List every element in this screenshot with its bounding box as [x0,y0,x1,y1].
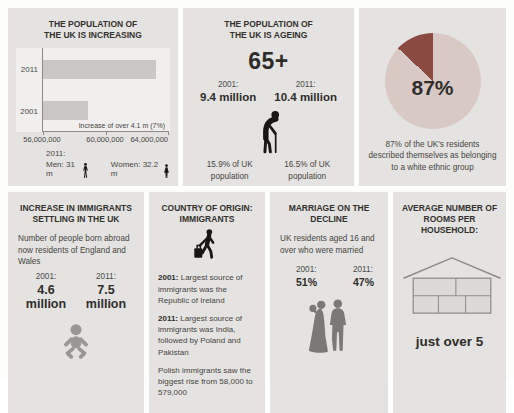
marriage-subtitle: UK residents aged 16 and over who were m… [280,233,380,256]
year-label: 2011: [274,80,337,89]
panel-country-of-origin: COUNTRY OF ORIGIN: IMMIGRANTS [149,192,265,413]
panel-population-ageing: THE POPULATION OF THE UK IS AGEING 65+ 2… [183,8,354,186]
value-2001: 9.4 million [200,91,256,103]
x-label-64m: 64,000,000 [130,135,168,144]
value-2011: 10.4 million [274,91,337,103]
year-label: 2011: [76,272,136,281]
fact-polish: Polish immigrants saw the biggest rise f… [158,365,257,399]
elderly-person-icon [252,109,286,159]
men-label: Men: 31 m [46,160,79,178]
panel-marriage-decline: MARRIAGE ON THE DECLINE UK residents age… [270,192,388,413]
age-group-label: 65+ [191,48,346,75]
bar-2011 [43,60,156,79]
marriage-values-row: 2001: 51% 2011: 47% [278,265,380,288]
panel-title: MARRIAGE ON THE DECLINE [278,203,380,225]
immigrants-2001-column: 2001: 4.6 million [16,272,76,311]
bar-chart-annotation: Increase of over 4.1 m (7%) [79,122,165,129]
panel-title: COUNTRY OF ORIGIN: IMMIGRANTS [157,203,257,225]
value-2011: 47% [353,276,374,288]
bar-chart-y-axis-labels: 2011 2001 [16,48,42,132]
value-2011: 7.5 million [76,283,136,311]
panel-rooms-per-household: AVERAGE NUMBER OF ROOMS PER HOUSEHOLD: j… [393,192,506,413]
fact-year: 2001: [158,273,178,282]
women-label: Women: 32.2 m [111,160,160,178]
value-2001: 4.6 million [16,283,76,311]
fact-2001: 2001: Largest source of immigrants was t… [158,272,257,306]
bottom-row: INCREASE IN IMMIGRANTS SETTLING IN THE U… [8,192,506,413]
population-bar-chart: 2011 2001 Increase of over 4.1 m (7%) [16,48,170,132]
fact-year: 2011: [158,314,178,323]
share-2001: 15.9% of UK population [207,159,253,181]
bar-chart-plot-area: Increase of over 4.1 m (7%) [42,48,168,132]
panel-ethnicity: 87% 87% of the UK's residents described … [359,8,506,186]
baby-icon [59,324,93,364]
share-2011: 16.5% of UK population [284,159,330,181]
top-row: THE POPULATION OF THE UK IS INCREASING 2… [8,8,506,186]
bar-2001 [43,101,88,120]
population-share-row: 15.9% of UK population 16.5% of UK popul… [191,159,346,184]
immigrants-2011-column: 2011: 7.5 million [76,272,136,311]
panel-title: AVERAGE NUMBER OF ROOMS PER HOUSEHOLD: [401,203,498,237]
year-label: 2001: [16,272,76,281]
gender-split-footnote: 2011: Men: 31 m Women: 32.2 m [46,149,170,178]
ageing-values-row: 2001: 9.4 million 2011: 10.4 million [191,80,346,103]
bar-chart-x-axis-labels: 56,000,000 60,000,000 64,000,000 [42,132,168,144]
origin-facts: 2001: Largest source of immigrants was t… [157,272,257,405]
wedding-couple-icon [305,297,353,359]
panel-title: INCREASE IN IMMIGRANTS SETTLING IN THE U… [16,203,136,225]
woman-icon [163,164,170,179]
fact-2011: 2011: Largest source of immigrants was I… [158,313,257,358]
value-2001: 51% [296,276,317,288]
man-icon [82,163,89,178]
panel-title: THE POPULATION OF THE UK IS AGEING [191,19,346,41]
x-label-60m: 60,000,000 [86,135,124,144]
x-tick-64m [168,131,169,135]
year-label: 2011: [353,265,374,274]
y-label-2001: 2001 [20,107,38,116]
year-label: 2001: [200,80,256,89]
footnote-year: 2011: [46,149,170,158]
panel-title: THE POPULATION OF THE UK IS INCREASING [16,19,170,41]
pie-center-label: 87% [411,76,453,100]
ageing-2011-column: 2011: 10.4 million [274,80,337,103]
men-women-row: Men: 31 m Women: 32.2 m [46,160,170,178]
ethnicity-caption: 87% of the UK's residents described them… [367,139,498,173]
marriage-2001-column: 2001: 51% [296,265,317,288]
panel-immigrants-increase: INCREASE IN IMMIGRANTS SETTLING IN THE U… [8,192,144,413]
bar-row-2011 [43,48,168,89]
year-label: 2001: [296,265,317,274]
x-label-56m: 56,000,000 [23,135,61,144]
panel-population-increasing: THE POPULATION OF THE UK IS INCREASING 2… [8,8,178,186]
immigrants-subtitle: Number of people born abroad now residen… [18,233,136,267]
y-label-2011: 2011 [21,65,38,74]
ethnicity-pie-chart: 87% [385,33,481,129]
rooms-average-value: just over 5 [401,334,498,349]
marriage-2011-column: 2011: 47% [353,265,374,288]
immigrants-values-row: 2001: 4.6 million 2011: 7.5 million [16,272,136,311]
traveler-icon [192,229,222,265]
ageing-2001-column: 2001: 9.4 million [200,80,256,103]
house-icon [401,253,503,321]
